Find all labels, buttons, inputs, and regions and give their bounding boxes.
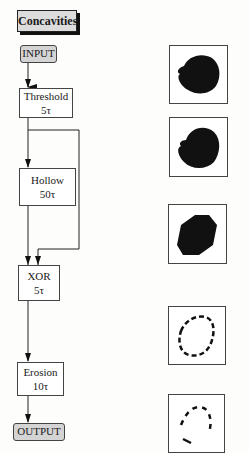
step-cost: 5τ [20, 103, 72, 117]
step-name: Erosion [18, 365, 63, 379]
xor-image [168, 306, 226, 365]
step-name: Threshold [20, 89, 72, 103]
output-node: OUTPUT [13, 423, 65, 441]
step-name: Hollow [20, 173, 75, 187]
threshold-node: Threshold 5τ [19, 88, 73, 118]
erosion-image [168, 394, 225, 453]
step-name: XOR [19, 269, 59, 283]
step-cost: 50τ [20, 187, 75, 201]
hollow-image [168, 204, 227, 264]
step-cost: 5τ [19, 283, 59, 297]
erosion-node: Erosion 10τ [17, 362, 64, 396]
input-image [169, 45, 228, 104]
input-node: INPUT [20, 45, 57, 63]
xor-node: XOR 5τ [18, 265, 60, 301]
diagram-title: Concavities [17, 10, 77, 32]
threshold-image [169, 117, 228, 177]
hollow-node: Hollow 50τ [19, 168, 76, 206]
step-cost: 10τ [18, 379, 63, 393]
